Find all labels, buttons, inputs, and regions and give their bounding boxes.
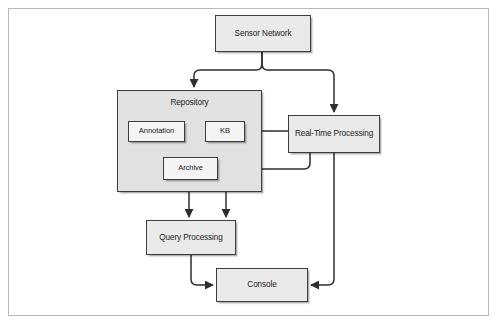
node-sensor-network-label: Sensor Network xyxy=(235,29,292,38)
node-archive[interactable]: Archive xyxy=(163,157,218,180)
node-kb-label: KB xyxy=(220,127,230,136)
node-annotation-label: Annotation xyxy=(139,127,174,136)
node-query-processing-label: Query Processing xyxy=(159,233,222,242)
node-real-time-processing[interactable]: Real-Time Processing xyxy=(288,115,380,153)
group-repository-label: Repository xyxy=(118,98,261,107)
node-sensor-network[interactable]: Sensor Network xyxy=(215,15,311,52)
node-real-time-processing-label: Real-Time Processing xyxy=(295,129,373,138)
diagram-page: Sensor Network Repository Annotation KB … xyxy=(0,0,498,326)
node-console-label: Console xyxy=(247,280,276,289)
node-archive-label: Archive xyxy=(178,164,203,173)
node-annotation[interactable]: Annotation xyxy=(128,121,185,142)
node-kb[interactable]: KB xyxy=(205,121,245,142)
edge-realtime-to-console xyxy=(311,153,334,285)
node-query-processing[interactable]: Query Processing xyxy=(146,220,236,255)
node-console[interactable]: Console xyxy=(216,268,308,302)
edge-sensor-to-realtime xyxy=(262,52,334,112)
edge-query-to-console xyxy=(191,255,213,285)
edge-sensor-to-repository xyxy=(194,52,262,87)
